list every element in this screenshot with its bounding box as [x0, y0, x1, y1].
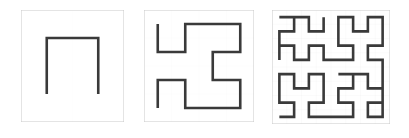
- grid-lines: [144, 10, 254, 122]
- panel-hilbert-order-3: [272, 10, 390, 124]
- hilbert-order-3-svg: [272, 10, 390, 124]
- hilbert-curve-figure: [0, 0, 409, 138]
- hilbert-order-1-svg: [21, 10, 124, 122]
- grid-lines: [272, 10, 390, 124]
- grid-lines: [21, 10, 124, 122]
- panel-hilbert-order-1: [21, 10, 124, 122]
- panel-hilbert-order-2: [144, 10, 254, 122]
- hilbert-order-2-svg: [144, 10, 254, 122]
